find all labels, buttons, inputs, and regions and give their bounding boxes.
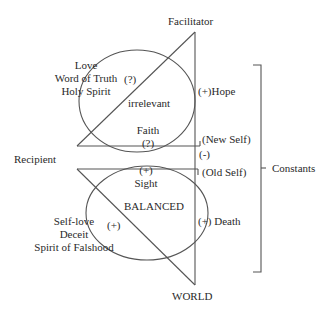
death-group: (+) Death <box>198 215 241 228</box>
negative-marker: (-) <box>199 148 210 161</box>
sight-group: (+) Sight <box>126 164 166 190</box>
faith-group: Faith (?) <box>128 124 168 150</box>
faith-marker: (?) <box>128 137 168 150</box>
hope-marker: (+) <box>198 85 212 97</box>
facilitator-label: Facilitator <box>168 15 213 28</box>
lower-list-item-spirit-of-falshood: Spirit of Falshood <box>24 241 124 254</box>
upper-list-item-holy-spirit: Holy Spirit <box>46 85 126 98</box>
upper-list-item-love: Love <box>46 59 126 72</box>
hope-group: (+)Hope <box>198 85 235 98</box>
upper-list-item-word-of-truth: Word of Truth <box>46 72 126 85</box>
world-label: WORLD <box>172 290 212 303</box>
death-label: Death <box>214 215 240 227</box>
old-self-label: (Old Self) <box>202 166 246 179</box>
death-marker: (+) <box>198 215 212 227</box>
upper-left-marker: (?) <box>124 73 136 86</box>
recipient-label: Recipient <box>14 153 56 166</box>
constants-label: Constants <box>272 162 315 175</box>
lower-left-marker: (+) <box>107 219 121 232</box>
lower-ellipse-label: BALANCED <box>124 200 184 213</box>
hope-label: Hope <box>212 85 236 97</box>
constants-bracket <box>253 65 261 272</box>
faith-label: Faith <box>128 124 168 137</box>
sight-label: Sight <box>126 177 166 190</box>
new-self-label: (New Self) <box>202 133 251 146</box>
sight-marker: (+) <box>126 164 166 177</box>
upper-ellipse-label: irrelevant <box>128 97 170 110</box>
upper-left-list: Love Word of Truth Holy Spirit <box>46 59 126 98</box>
